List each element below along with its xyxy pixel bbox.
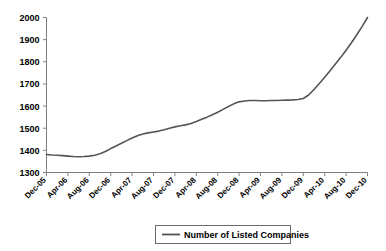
y-axis-tick-label: 1700 [19,79,39,89]
y-axis-tick-label: 2000 [19,13,39,23]
line-chart: 13001400150016001700180019002000 Dec-05A… [0,0,386,251]
x-axis-tick-label: Dec-07 [151,175,176,200]
legend-label: Number of Listed Companies [184,230,309,240]
y-axis-tick-label: 1500 [19,124,39,134]
y-axis-tick-label: 1300 [19,168,39,178]
y-axis-tick-label: 1400 [19,146,39,156]
y-axis-tick-label: 1600 [19,102,39,112]
x-axis-tick-label: Aug-07 [129,175,155,201]
y-axis-tick-labels: 13001400150016001700180019002000 [19,13,39,178]
x-axis-tick-label: Dec-06 [87,175,112,200]
y-axis-tick-label: 1900 [19,35,39,45]
x-axis-tick-label: Aug-08 [194,175,220,201]
y-axis-ticks [43,18,47,173]
x-axis-tick-label: Dec-08 [216,175,241,200]
series-line-number-of-listed-companies [47,18,368,157]
chart-container: 13001400150016001700180019002000 Dec-05A… [0,0,386,251]
x-axis-tick-label: Aug-06 [65,175,91,201]
x-axis-tick-label: Dec-05 [23,175,48,200]
y-axis-tick-label: 1800 [19,57,39,67]
chart-legend: Number of Listed Companies [156,226,310,244]
x-axis-tick-label: Aug-10 [322,175,348,201]
chart-axes [47,18,368,173]
x-axis-tick-label: Dec-10 [344,175,369,200]
x-axis-tick-label: Aug-09 [258,175,284,201]
x-axis-tick-labels: Dec-05Apr-06Aug-06Dec-06Apr-07Aug-07Dec-… [23,175,369,201]
x-axis-tick-label: Dec-09 [280,175,305,200]
